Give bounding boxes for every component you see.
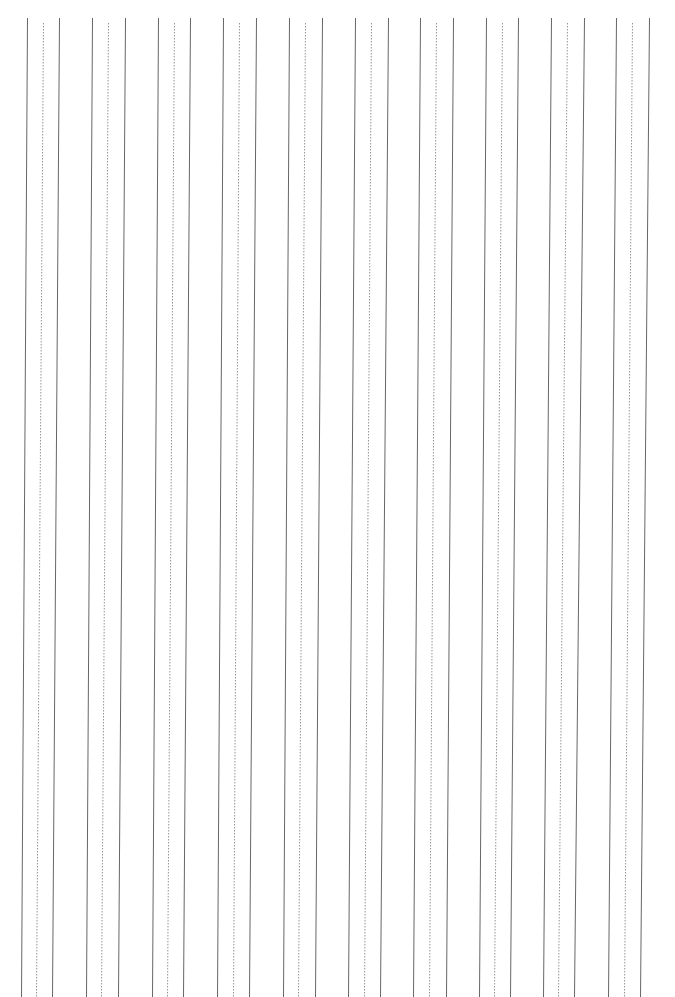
dashed-midline: [234, 23, 240, 997]
line-group: [349, 18, 389, 997]
solid-line: [184, 18, 191, 997]
line-group: [609, 18, 650, 997]
line-group: [153, 18, 191, 997]
solid-line: [218, 18, 224, 997]
dashed-midline: [625, 23, 633, 997]
solid-line: [53, 18, 60, 997]
dashed-midline: [365, 23, 372, 997]
dashed-midline: [168, 23, 175, 997]
solid-line: [609, 18, 617, 997]
dashed-midline: [37, 23, 44, 997]
line-group: [414, 18, 454, 997]
line-group: [22, 18, 60, 997]
line-group: [284, 18, 323, 997]
solid-line: [575, 18, 585, 997]
solid-line: [87, 18, 93, 997]
dashed-midline: [299, 23, 306, 997]
dashed-midline: [102, 23, 109, 997]
vertical-ruling: [0, 0, 675, 997]
line-group: [480, 18, 519, 997]
solid-line: [511, 18, 519, 997]
solid-line: [381, 18, 389, 997]
solid-line: [480, 18, 487, 997]
lined-paper-page: [0, 0, 675, 997]
solid-line: [349, 18, 356, 997]
dashed-midline: [495, 23, 503, 997]
solid-line: [414, 18, 421, 997]
solid-line: [284, 18, 290, 997]
line-group: [544, 18, 585, 997]
solid-line: [447, 18, 454, 997]
dashed-midline: [430, 23, 437, 997]
solid-line: [119, 18, 126, 997]
solid-line: [22, 18, 28, 997]
dashed-midline: [559, 23, 568, 997]
line-group: [218, 18, 257, 997]
solid-line: [641, 18, 650, 997]
solid-line: [544, 18, 552, 997]
solid-line: [153, 18, 159, 997]
solid-line: [316, 18, 323, 997]
line-group: [87, 18, 126, 997]
solid-line: [250, 18, 257, 997]
